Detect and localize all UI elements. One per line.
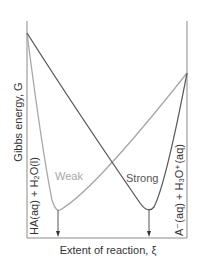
- gibbs-energy-diagram: Weak Strong Gibbs energy, G HA(aq) + H₂O…: [0, 0, 199, 267]
- y-axis-label: Gibbs energy, G: [12, 82, 24, 161]
- products-label: A⁻(aq) + H₃O⁺(aq): [173, 144, 185, 236]
- strong-label: Strong: [126, 172, 158, 184]
- strong-arrowhead-icon: [147, 231, 151, 237]
- weak-arrowhead-icon: [56, 231, 60, 237]
- x-axis-label: Extent of reaction, ξ: [60, 244, 157, 256]
- reactants-label: HA(aq) + H₂O(l): [28, 157, 40, 235]
- strong-curve: [27, 33, 187, 210]
- weak-label: Weak: [55, 170, 83, 182]
